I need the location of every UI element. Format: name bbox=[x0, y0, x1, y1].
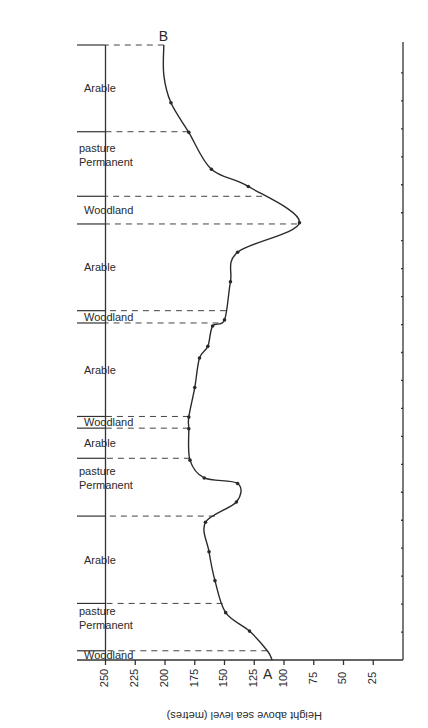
transect-profile-figure: WoodlandPermanentpastureArablePermanentp… bbox=[0, 0, 428, 728]
profile-point bbox=[193, 386, 197, 390]
tick-label: 175 bbox=[188, 669, 200, 687]
tick-label: 100 bbox=[277, 669, 289, 687]
profile-point bbox=[207, 550, 211, 554]
land-use-label: Woodland bbox=[84, 204, 133, 216]
transect-profile-chart: WoodlandPermanentpastureArablePermanentp… bbox=[0, 0, 428, 728]
profile-point bbox=[236, 250, 240, 254]
land-use-label-text: Arable bbox=[84, 364, 116, 376]
profile-point bbox=[187, 427, 191, 431]
profile-point bbox=[169, 101, 173, 105]
tick-label: 250 bbox=[98, 669, 110, 687]
profile-point bbox=[210, 167, 214, 171]
tick-label: 200 bbox=[158, 669, 170, 687]
profile-point bbox=[187, 131, 191, 135]
land-use-label-text: pasture bbox=[79, 605, 116, 617]
profile-point bbox=[211, 324, 215, 328]
profile-point bbox=[223, 318, 227, 322]
profile-line bbox=[163, 45, 299, 660]
profile-point bbox=[198, 356, 202, 360]
land-use-label: Arable bbox=[84, 364, 116, 376]
land-use-label: Arable bbox=[84, 82, 116, 94]
chart-axes bbox=[77, 42, 403, 660]
land-use-label-text: Woodland bbox=[84, 204, 133, 216]
land-use-label-text: Permanent bbox=[79, 619, 133, 631]
tick-label: 150 bbox=[217, 669, 229, 687]
land-use-label-text: Woodland bbox=[84, 649, 133, 661]
land-use-label-text: Woodland bbox=[84, 311, 133, 323]
profile-point bbox=[204, 520, 208, 524]
profile-point bbox=[202, 476, 206, 480]
land-use-label-text: Arable bbox=[84, 261, 116, 273]
profile-point bbox=[235, 500, 239, 504]
tick-label: 50 bbox=[336, 672, 348, 684]
profile-point bbox=[188, 458, 192, 462]
tick-label: 25 bbox=[366, 672, 378, 684]
point-a-label: A bbox=[263, 666, 273, 682]
land-use-label-text: pasture bbox=[79, 142, 116, 154]
land-use-label: Woodland bbox=[84, 649, 133, 661]
height-axis-ticks: 250225200175150125100755025 bbox=[98, 73, 403, 687]
land-use-label-text: Permanent bbox=[79, 156, 133, 168]
tick-label: 75 bbox=[307, 672, 319, 684]
profile-point bbox=[247, 185, 251, 189]
height-axis-title: Height above sea level (metres) bbox=[167, 710, 322, 722]
land-use-label-text: Arable bbox=[84, 82, 116, 94]
profile-point bbox=[224, 611, 228, 615]
tick-label: 225 bbox=[128, 669, 140, 687]
land-use-label-text: Arable bbox=[84, 554, 116, 566]
height-profile bbox=[163, 45, 301, 660]
land-use-label-text: Arable bbox=[84, 437, 116, 449]
land-use-label: Woodland bbox=[84, 311, 133, 323]
profile-point bbox=[206, 345, 210, 349]
profile-point bbox=[187, 415, 191, 419]
profile-point bbox=[248, 629, 252, 633]
land-use-label: Arable bbox=[84, 261, 116, 273]
land-use-label-text: Woodland bbox=[84, 416, 133, 428]
tick-label: 125 bbox=[247, 669, 259, 687]
land-use-label-text: pasture bbox=[79, 465, 116, 477]
profile-point bbox=[298, 221, 302, 225]
land-use-segments: WoodlandPermanentpastureArablePermanentp… bbox=[77, 45, 297, 661]
land-use-label-text: Permanent bbox=[79, 479, 133, 491]
profile-point bbox=[236, 482, 240, 486]
point-b-label: B bbox=[159, 28, 168, 44]
land-use-label: Arable bbox=[84, 437, 116, 449]
land-use-label: Arable bbox=[84, 554, 116, 566]
profile-point bbox=[213, 579, 217, 583]
profile-point bbox=[229, 280, 233, 284]
land-use-label: Woodland bbox=[84, 416, 133, 428]
